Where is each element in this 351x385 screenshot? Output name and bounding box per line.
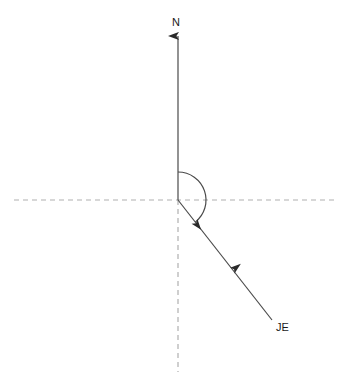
bearing-diagram-canvas: N JE (0, 0, 351, 385)
bearing-ray-label: JE (276, 321, 289, 333)
north-axis-label: N (172, 16, 180, 28)
bearing-angle-arc (178, 172, 206, 222)
bearing-diagram-svg: N JE (0, 0, 351, 385)
bearing-ray-line (178, 200, 272, 320)
